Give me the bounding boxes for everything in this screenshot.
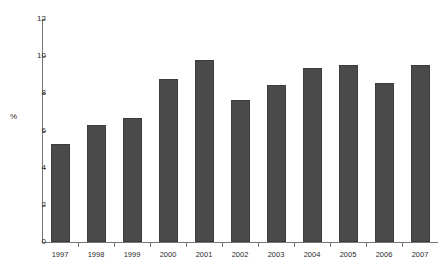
bar bbox=[87, 125, 106, 242]
bar bbox=[51, 144, 70, 242]
y-tick-label-wrap: 0 bbox=[0, 238, 46, 246]
x-tick-label: 1999 bbox=[114, 250, 150, 259]
y-tick-label: 12 bbox=[16, 15, 46, 23]
x-tick-label: 1998 bbox=[78, 250, 114, 259]
x-tick-mark bbox=[258, 243, 259, 247]
x-tick-mark bbox=[330, 243, 331, 247]
y-axis-title: % bbox=[10, 112, 17, 122]
bar bbox=[339, 65, 358, 242]
bar bbox=[267, 85, 286, 242]
x-tick-label: 2007 bbox=[402, 250, 438, 259]
x-tick-mark bbox=[294, 243, 295, 247]
y-tick-label-wrap: 6 bbox=[0, 127, 46, 135]
y-tick-label: 8 bbox=[16, 89, 46, 97]
x-tick-mark bbox=[150, 243, 151, 247]
y-tick-label: 2 bbox=[16, 201, 46, 209]
x-tick-label: 2006 bbox=[366, 250, 402, 259]
y-tick-label-wrap: 2 bbox=[0, 201, 46, 209]
bar bbox=[303, 68, 322, 242]
bar-chart: % 024681012 1997199819992000200120022003… bbox=[0, 0, 446, 279]
bar bbox=[231, 100, 250, 242]
x-tick-mark bbox=[222, 243, 223, 247]
y-tick-label-wrap: 8 bbox=[0, 89, 46, 97]
y-tick-label-wrap: 4 bbox=[0, 164, 46, 172]
x-tick-label: 2005 bbox=[330, 250, 366, 259]
bar bbox=[195, 60, 214, 242]
x-tick-label: 2004 bbox=[294, 250, 330, 259]
x-tick-mark bbox=[186, 243, 187, 247]
y-tick-label: 4 bbox=[16, 164, 46, 172]
bar bbox=[159, 79, 178, 242]
x-tick-label: 2002 bbox=[222, 250, 258, 259]
x-tick-label: 2003 bbox=[258, 250, 294, 259]
x-tick-label: 2000 bbox=[150, 250, 186, 259]
y-tick-label: 10 bbox=[16, 52, 46, 60]
y-tick-label-wrap: 12 bbox=[0, 15, 46, 23]
x-tick-mark bbox=[78, 243, 79, 247]
y-tick-label: 6 bbox=[16, 127, 46, 135]
bar bbox=[411, 65, 430, 242]
x-axis-line bbox=[42, 242, 438, 243]
x-tick-mark bbox=[366, 243, 367, 247]
x-tick-label: 1997 bbox=[42, 250, 78, 259]
x-tick-label: 2001 bbox=[186, 250, 222, 259]
bar bbox=[375, 83, 394, 242]
x-tick-mark bbox=[114, 243, 115, 247]
y-tick-label-wrap: 10 bbox=[0, 52, 46, 60]
bar bbox=[123, 118, 142, 242]
y-tick-label: 0 bbox=[16, 238, 46, 246]
x-tick-mark bbox=[402, 243, 403, 247]
